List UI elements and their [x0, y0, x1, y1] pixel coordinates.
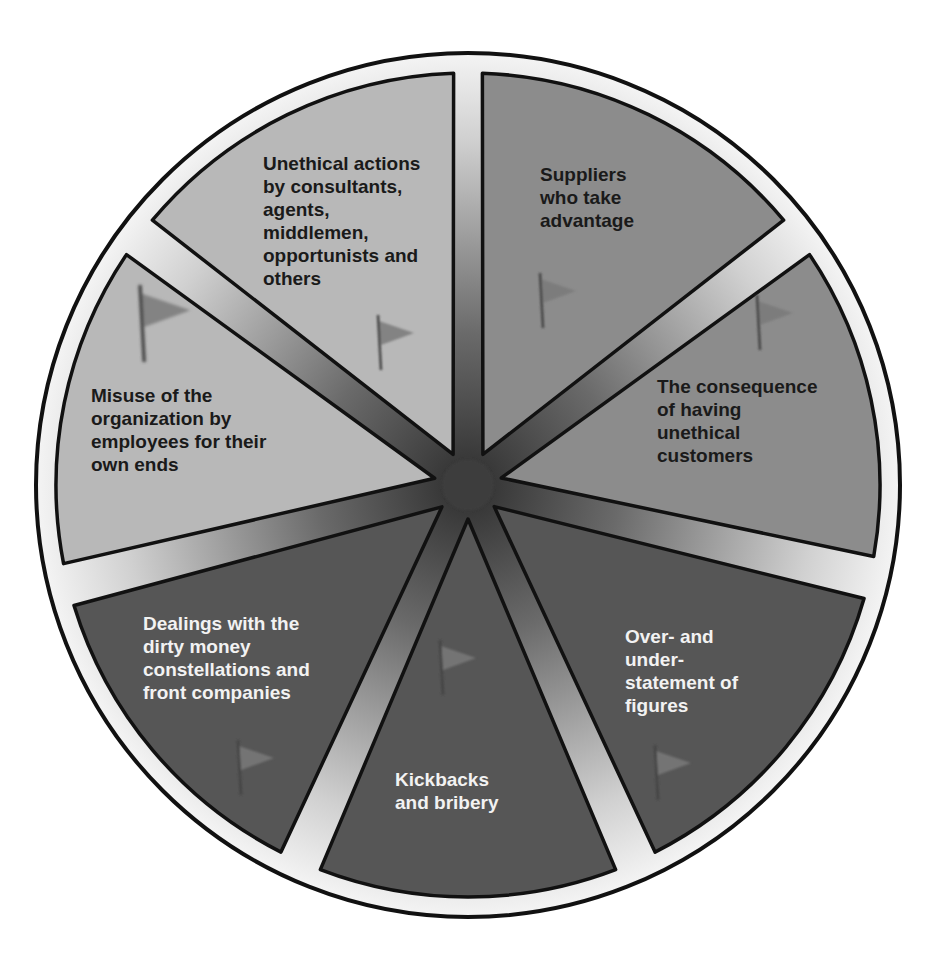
center-hub	[442, 459, 494, 511]
segment-label-kickbacks: Kickbacks and bribery	[395, 768, 498, 814]
segment-label-employee-misuse: Misuse of the organization by employees …	[91, 384, 266, 476]
segment-label-dirty-money: Dealings with the dirty money constellat…	[143, 612, 310, 704]
segment-label-over-under-statement: Over- and under- statement of figures	[625, 625, 738, 717]
segment-label-suppliers: Suppliers who take advantage	[540, 163, 634, 232]
segment-label-third-party-actions: Unethical actions by consultants, agents…	[263, 152, 420, 290]
segment-label-unethical-customers: The consequence of having unethical cust…	[657, 375, 818, 467]
